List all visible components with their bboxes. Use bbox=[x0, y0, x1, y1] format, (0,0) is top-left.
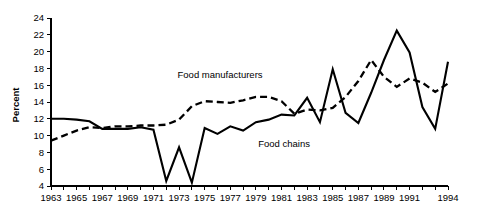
y-tick-label: 24 bbox=[33, 12, 44, 23]
x-tick-label: 1985 bbox=[322, 192, 343, 203]
x-tick-label: 1987 bbox=[348, 192, 369, 203]
y-tick-label: 18 bbox=[33, 63, 44, 74]
x-tick-label: 1969 bbox=[117, 192, 138, 203]
x-tick-label: 1981 bbox=[271, 192, 292, 203]
y-axis-title: Percent bbox=[10, 87, 21, 123]
chart-container: Percent 4681012141618202224 196319651967… bbox=[0, 0, 480, 218]
data-series bbox=[51, 31, 448, 183]
axes bbox=[51, 18, 448, 186]
x-tick-label: 1975 bbox=[194, 192, 215, 203]
x-tick-label: 1967 bbox=[92, 192, 113, 203]
x-tick-label: 1963 bbox=[40, 192, 61, 203]
y-tick-label: 22 bbox=[33, 29, 44, 40]
x-tick-label: 1991 bbox=[399, 192, 420, 203]
y-tick-label: 6 bbox=[39, 164, 44, 175]
line-chart: Percent 4681012141618202224 196319651967… bbox=[0, 0, 480, 218]
series-annotation-label: Food chains bbox=[258, 138, 310, 149]
x-tick-label: 1989 bbox=[373, 192, 394, 203]
x-tick-label: 1977 bbox=[220, 192, 241, 203]
y-axis-tick-labels: 4681012141618202224 bbox=[33, 12, 44, 191]
x-tick-label: 1994 bbox=[437, 192, 458, 203]
series-line-food-chains bbox=[51, 31, 448, 183]
y-axis-ticks bbox=[47, 18, 51, 186]
x-axis-tick-labels: 1963196519671969197119731975197719791981… bbox=[40, 192, 458, 203]
y-tick-label: 14 bbox=[33, 96, 44, 107]
x-axis-ticks bbox=[51, 186, 448, 190]
y-tick-label: 20 bbox=[33, 46, 44, 57]
y-tick-label: 4 bbox=[39, 180, 44, 191]
series-annotation-label: Food manufacturers bbox=[178, 69, 263, 80]
y-tick-label: 12 bbox=[33, 113, 44, 124]
y-tick-label: 16 bbox=[33, 80, 44, 91]
x-tick-label: 1965 bbox=[66, 192, 87, 203]
x-tick-label: 1983 bbox=[297, 192, 318, 203]
y-tick-label: 10 bbox=[33, 130, 44, 141]
x-tick-label: 1973 bbox=[168, 192, 189, 203]
y-axis-label-text: Percent bbox=[10, 87, 21, 123]
x-tick-label: 1979 bbox=[245, 192, 266, 203]
y-tick-label: 8 bbox=[39, 147, 44, 158]
x-tick-label: 1971 bbox=[143, 192, 164, 203]
